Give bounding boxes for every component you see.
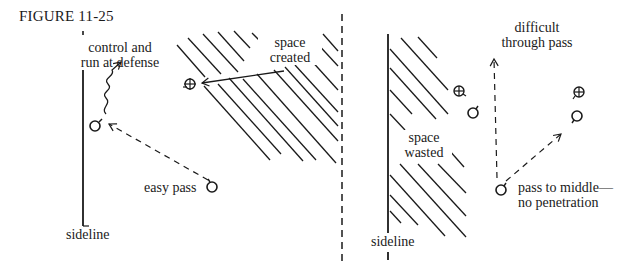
label-difficult-line1: difficult <box>482 20 592 35</box>
label-difficult-through-pass: difficult through pass <box>482 20 592 50</box>
attacker-icon <box>572 111 582 123</box>
label-control-line2: run at defense <box>55 55 185 70</box>
label-pass-middle-line1: pass to middle— <box>518 180 613 195</box>
label-space-wasted: space wasted <box>396 130 452 160</box>
defender-icon <box>454 86 466 96</box>
attacker-icon <box>496 183 506 195</box>
easy-pass-arrow <box>109 124 208 180</box>
label-space-created: space created <box>258 35 322 65</box>
through-pass-arrow <box>494 59 497 178</box>
label-left-sideline: sideline <box>66 227 110 242</box>
attacker-icon <box>468 106 478 118</box>
attacker-icon <box>207 179 217 192</box>
label-pass-middle-line2: no penetration <box>518 195 613 210</box>
label-space-created-line1: space <box>258 35 322 50</box>
label-difficult-line2: through pass <box>482 35 592 50</box>
defender-icon <box>573 87 584 99</box>
label-space-created-line2: created <box>258 50 322 65</box>
attacker-icon <box>90 119 102 131</box>
label-space-wasted-line1: space <box>396 130 452 145</box>
label-control-run: control and run at defense <box>55 40 185 70</box>
label-right-sideline: sideline <box>371 234 415 249</box>
label-space-wasted-line2: wasted <box>396 145 452 160</box>
space-created-arrow <box>202 71 284 83</box>
label-pass-to-middle: pass to middle— no penetration <box>518 180 613 210</box>
middle-pass-arrow <box>506 134 561 181</box>
label-control-line1: control and <box>55 40 185 55</box>
label-easy-pass: easy pass <box>144 180 197 195</box>
defender-icon <box>183 78 196 90</box>
